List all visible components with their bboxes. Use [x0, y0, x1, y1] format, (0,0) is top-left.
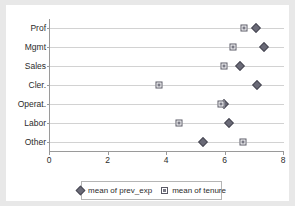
y-axis-tick: [47, 85, 50, 86]
legend-label-prev-exp: mean of prev_exp: [88, 187, 152, 195]
plot-area: ProfMgmtSalesCler.Operat.LaborOther: [49, 19, 284, 151]
data-point-tenure: [155, 82, 162, 89]
y-axis-tick: [47, 123, 50, 124]
data-point-tenure: [240, 138, 247, 145]
legend-entry-prev-exp: mean of prev_exp: [77, 187, 152, 195]
gridline: [50, 47, 284, 48]
y-axis-label-cler: Cler.: [29, 81, 46, 90]
gridline: [50, 104, 284, 105]
y-axis-label-sales: Sales: [25, 62, 46, 71]
y-axis-tick: [47, 66, 50, 67]
data-point-tenure: [218, 100, 225, 107]
diamond-icon: [76, 186, 86, 196]
x-axis-label-0: 0: [47, 156, 52, 165]
gridline: [50, 66, 284, 67]
gridline: [50, 123, 284, 124]
legend-entry-tenure: mean of tenure: [161, 187, 226, 195]
chart-inner-frame: ProfMgmtSalesCler.Operat.LaborOther 0246…: [6, 5, 289, 201]
chart-legend: mean of prev_exp mean of tenure: [81, 181, 222, 200]
y-axis-label-labor: Labor: [24, 118, 46, 127]
y-axis-tick: [47, 28, 50, 29]
y-axis-tick: [47, 142, 50, 143]
x-axis-label-2: 2: [105, 156, 110, 165]
gridline: [50, 142, 284, 143]
square-icon: [161, 187, 168, 194]
y-axis-label-prof: Prof: [30, 24, 46, 33]
y-axis-tick: [47, 47, 50, 48]
x-axis-label-8: 8: [281, 156, 286, 165]
y-axis-tick: [47, 104, 50, 105]
data-point-tenure: [221, 63, 228, 70]
y-axis-label-mgmt: Mgmt: [25, 43, 46, 52]
y-axis-label-operat: Operat.: [18, 100, 46, 109]
x-axis-label-6: 6: [222, 156, 227, 165]
chart-figure: ProfMgmtSalesCler.Operat.LaborOther 0246…: [0, 0, 295, 206]
data-point-tenure: [175, 119, 182, 126]
x-axis: 02468: [49, 151, 283, 152]
data-point-tenure: [229, 44, 236, 51]
legend-label-tenure: mean of tenure: [172, 187, 226, 195]
x-axis-label-4: 4: [164, 156, 169, 165]
data-point-tenure: [240, 25, 247, 32]
y-axis-label-other: Other: [25, 137, 46, 146]
gridline: [50, 28, 284, 29]
gridline: [50, 85, 284, 86]
